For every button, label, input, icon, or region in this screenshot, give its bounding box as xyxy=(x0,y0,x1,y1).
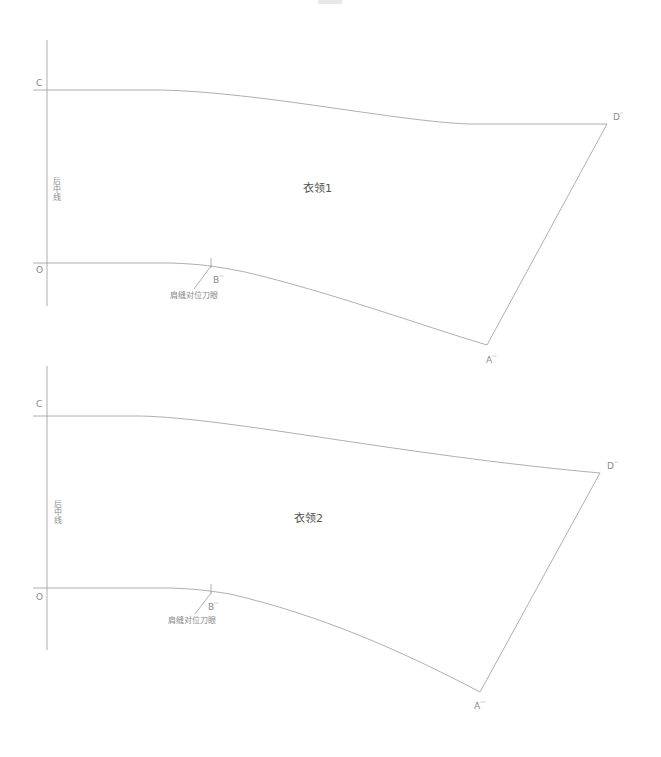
point-d-sup-1: '' xyxy=(620,111,623,117)
point-d-name-2: D xyxy=(607,461,614,471)
top-edge-1 xyxy=(33,90,607,124)
center-back-label-1: 后中线 xyxy=(51,177,59,201)
point-a-label-2: A'''' xyxy=(474,702,486,711)
front-edge-2 xyxy=(480,473,600,692)
piece-title-1: 衣领1 xyxy=(303,183,332,194)
point-c-name-1: C xyxy=(36,78,42,88)
point-o-label-1: O xyxy=(36,266,43,275)
point-o-label-2: O xyxy=(36,593,43,602)
point-a-sup-1: ''' xyxy=(492,354,496,360)
front-edge-1 xyxy=(487,124,607,345)
neckline-edge-2 xyxy=(33,588,480,692)
point-a-sup-2: '''' xyxy=(480,700,486,706)
point-d-label-1: D'' xyxy=(613,113,623,122)
point-d-label-2: D''' xyxy=(607,462,618,471)
notch-label-2: 肩缝对位刀眼 xyxy=(168,617,216,625)
notch-label-1: 肩缝对位刀眼 xyxy=(170,292,218,300)
pattern-drawing xyxy=(0,0,661,757)
point-o-name-2: O xyxy=(36,592,43,602)
neckline-edge-1 xyxy=(33,263,487,345)
point-b-label-2: B''' xyxy=(208,603,218,612)
notch-leader-1 xyxy=(194,266,211,289)
point-b-label-1: B''' xyxy=(213,276,223,285)
point-d-sup-2: ''' xyxy=(614,460,618,466)
piece-title-2: 衣领2 xyxy=(294,513,323,524)
point-b-sup-2: ''' xyxy=(214,601,218,607)
point-c-label-1: C xyxy=(36,79,42,88)
point-d-name-1: D xyxy=(613,112,620,122)
point-a-label-1: A''' xyxy=(486,356,496,365)
point-o-name-1: O xyxy=(36,265,43,275)
point-b-sup-1: ''' xyxy=(219,274,223,280)
point-c-label-2: C xyxy=(36,400,42,409)
point-c-name-2: C xyxy=(36,399,42,409)
top-edge-2 xyxy=(33,416,600,473)
center-back-label-2: 后中线 xyxy=(52,500,60,524)
